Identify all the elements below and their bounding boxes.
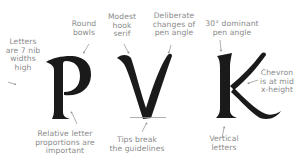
letter-v	[117, 54, 172, 119]
arrow-dominant-angle	[220, 40, 221, 50]
annotation-dominant-angle: 30° dominant pen angle	[199, 20, 265, 37]
annotation-tips: Tips break the guidelines	[104, 136, 170, 153]
annotation-proportions: Relative letter proportions are importan…	[30, 130, 100, 156]
annotation-hook-serif: Modest hook serif	[100, 13, 144, 39]
arrow-hook-serif	[124, 44, 128, 52]
arrow-pen-angle-changes	[169, 45, 171, 52]
arrow-proportions	[72, 113, 77, 124]
arrow-round-bowls	[84, 44, 89, 52]
arrow-letters-height	[8, 82, 14, 84]
annotation-round-bowls: Round bowls	[64, 20, 104, 37]
letter-p	[46, 56, 91, 119]
annotation-letters-height: Letters are 7 nib widths high	[0, 38, 46, 72]
annotation-vertical: Vertical letters	[200, 135, 248, 152]
annotation-pen-angle-changes: Deliberate changes of pen angle	[148, 12, 200, 38]
arrow-tips	[142, 124, 146, 132]
calligraphy-diagram: Letters are 7 nib widths high Round bowl…	[0, 0, 301, 166]
annotation-chevron: Chevron is at mid x-height	[253, 69, 301, 95]
